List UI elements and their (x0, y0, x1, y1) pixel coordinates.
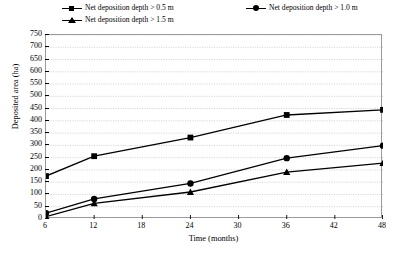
series-line-2 (46, 163, 383, 216)
y-tickmark (45, 169, 49, 170)
y-tick-label: 400 (0, 116, 42, 124)
data-point-1-2 (187, 180, 193, 186)
x-tick-label: 18 (121, 221, 161, 230)
data-point-0-0 (46, 173, 49, 179)
y-tick-label: 150 (0, 177, 42, 185)
x-tick-label: 24 (169, 221, 209, 230)
y-tick-label: 750 (0, 30, 42, 38)
x-tick-label: 30 (218, 221, 258, 230)
y-tickmark (45, 206, 49, 207)
y-tickmark (45, 108, 49, 109)
legend-label-0: Net deposition depth > 0.5 m (85, 3, 174, 13)
x-axis-tick-labels: 612182430364248 (0, 221, 404, 233)
x-tick-label: 36 (266, 221, 306, 230)
y-tickmark (45, 83, 49, 84)
y-tickmark (45, 95, 49, 96)
y-tick-label: 450 (0, 104, 42, 112)
y-axis-title: Deposited area (ha) (11, 32, 20, 162)
y-tick-label: 100 (0, 189, 42, 197)
y-tick-label: 350 (0, 128, 42, 136)
y-axis-tick-labels: 0501001502002503003504004505005506006507… (0, 34, 42, 218)
legend-item-1: Net deposition depth > 1.0 m (246, 3, 358, 13)
y-tick-label: 50 (0, 202, 42, 210)
data-point-0-3 (284, 112, 290, 118)
y-tickmark (45, 120, 49, 121)
chart-figure: Net deposition depth > 0.5 m Net deposit… (0, 0, 404, 259)
data-point-0-2 (188, 135, 194, 141)
legend-item-0: Net deposition depth > 0.5 m (62, 3, 174, 13)
y-tickmark (45, 144, 49, 145)
series-line-0 (46, 110, 383, 176)
y-tickmark (45, 193, 49, 194)
legend-triangle-marker-icon (62, 16, 82, 25)
x-axis-tickmarks (47, 215, 383, 219)
data-point-0-4 (380, 107, 383, 113)
x-axis-title: Time (months) (45, 234, 382, 243)
y-tick-label: 600 (0, 67, 42, 75)
y-tick-label: 700 (0, 42, 42, 50)
legend-label-1: Net deposition depth > 1.0 m (269, 3, 358, 13)
x-tick-label: 42 (314, 221, 354, 230)
y-tickmark (45, 59, 49, 60)
y-tickmark (45, 157, 49, 158)
y-tickmark (45, 132, 49, 133)
legend-item-2: Net deposition depth > 1.5 m (62, 15, 174, 25)
plot-canvas (46, 35, 383, 219)
legend-circle-marker-icon (246, 4, 266, 13)
x-tick-label: 12 (73, 221, 113, 230)
y-tick-label: 200 (0, 165, 42, 173)
x-tick-label: 48 (362, 221, 402, 230)
data-point-0-1 (91, 153, 97, 159)
y-tickmark (45, 34, 49, 35)
plot-area (45, 34, 382, 218)
y-tickmark (45, 218, 49, 219)
data-point-1-4 (380, 142, 383, 148)
y-tick-label: 650 (0, 55, 42, 63)
y-tick-label: 250 (0, 153, 42, 161)
data-point-1-3 (284, 155, 290, 161)
gridlines (46, 35, 383, 207)
y-tick-label: 550 (0, 79, 42, 87)
y-tickmark (45, 181, 49, 182)
y-tickmark (45, 46, 49, 47)
y-tick-label: 500 (0, 91, 42, 99)
y-tick-label: 300 (0, 140, 42, 148)
legend-square-marker-icon (62, 4, 82, 13)
data-series-layer (46, 107, 383, 219)
y-tickmark (45, 71, 49, 72)
legend-label-2: Net deposition depth > 1.5 m (85, 15, 174, 25)
x-tick-label: 6 (25, 221, 65, 230)
chart-legend: Net deposition depth > 0.5 m Net deposit… (62, 2, 398, 28)
